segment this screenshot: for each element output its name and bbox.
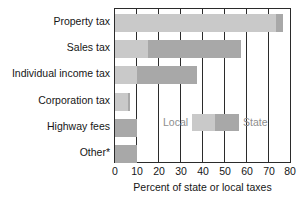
x-axis-tick-labels: 0 10 20 30 40 50 60 70 80: [0, 166, 298, 180]
bar-segment-state: [137, 66, 197, 84]
bar-segment-state: [148, 40, 241, 58]
category-label-corporation-tax: Corporation tax: [38, 95, 110, 106]
bar-sales-tax: [115, 40, 241, 58]
x-tick-30: 30: [175, 166, 187, 177]
x-tick-20: 20: [153, 166, 165, 177]
plot-area: [114, 8, 291, 163]
category-label-other: Other*: [80, 147, 110, 158]
horizontal-bar-chart: Property tax Sales tax Individual income…: [0, 0, 298, 208]
x-tick-70: 70: [263, 166, 275, 177]
x-tick-40: 40: [197, 166, 209, 177]
category-label-individual-income-tax: Individual income tax: [12, 68, 110, 79]
bar-segment-state: [115, 119, 137, 137]
bar-segment-local: [115, 14, 276, 32]
bar-highway-fees: [115, 119, 137, 137]
x-tick-80: 80: [284, 166, 296, 177]
x-tick-0: 0: [112, 166, 118, 177]
x-axis-title: Percent of state or local taxes: [114, 181, 291, 193]
bar-other: [115, 145, 137, 163]
category-label-highway-fees: Highway fees: [47, 121, 110, 132]
bar-individual-income-tax: [115, 66, 197, 84]
bar-segment-state: [128, 93, 130, 111]
bar-segment-local: [115, 66, 137, 84]
x-tick-10: 10: [131, 166, 143, 177]
bar-property-tax: [115, 14, 283, 32]
bar-segment-local: [115, 40, 148, 58]
category-label-property-tax: Property tax: [53, 16, 110, 27]
bar-segment-state: [115, 145, 137, 163]
bar-segment-state: [276, 14, 283, 32]
x-tick-60: 60: [241, 166, 253, 177]
x-tick-50: 50: [219, 166, 231, 177]
category-label-sales-tax: Sales tax: [67, 42, 110, 53]
bar-segment-local: [115, 93, 128, 111]
bar-corporation-tax: [115, 93, 130, 111]
